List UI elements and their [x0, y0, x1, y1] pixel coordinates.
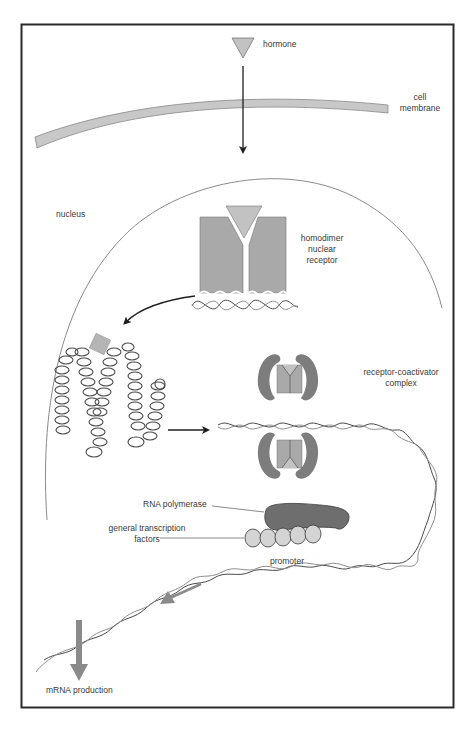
coactivator-label-line1: receptor-coactivator	[356, 367, 446, 378]
rna-polymerase-label: RNA polymerase	[143, 499, 207, 510]
cell-membrane-label-line1: cell	[392, 92, 448, 103]
homodimer-receptor	[200, 206, 286, 295]
cell-membrane-label: cell membrane	[392, 92, 448, 114]
coactivator-complex-bottom	[258, 433, 318, 479]
homodimer-label-line1: homodimer	[294, 233, 350, 244]
mrna-production-label: mRNA production	[46, 685, 113, 696]
curved-arrow-to-chromatin	[126, 296, 195, 322]
nucleus-label: nucleus	[56, 209, 85, 220]
chromatin-coils	[55, 333, 165, 457]
gtf-label-line2: factors	[102, 534, 192, 545]
general-transcription-factors	[245, 525, 321, 547]
homodimer-label-line3: receptor	[294, 255, 350, 266]
receptor-dna	[192, 300, 298, 310]
gtf-label: general transcription factors	[102, 523, 192, 545]
coactivator-complex-top	[258, 354, 318, 400]
gtf-label-line1: general transcription	[102, 523, 192, 534]
coactivator-complex-label: receptor-coactivator complex	[356, 367, 446, 389]
coactivator-label-line2: complex	[356, 378, 446, 389]
promoter-label: promoter	[270, 556, 304, 567]
hormone-icon	[232, 38, 254, 58]
homodimer-label: homodimer nuclear receptor	[294, 233, 350, 266]
homodimer-label-line2: nuclear	[294, 244, 350, 255]
cell-membrane	[35, 99, 388, 148]
rna-polymerase-leader	[212, 506, 264, 512]
open-dna-strand	[36, 423, 437, 672]
rna-polymerase-shape	[265, 503, 349, 530]
cell-membrane-label-line2: membrane	[392, 103, 448, 114]
hormone-label: hormone	[263, 39, 297, 50]
mrna-production-arrow	[70, 620, 88, 681]
